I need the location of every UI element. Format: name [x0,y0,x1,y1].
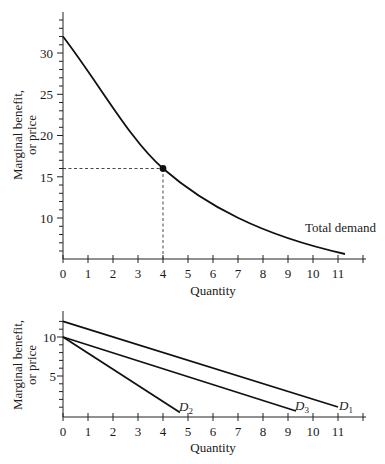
top-x-label: 5 [185,266,192,281]
bottom-x-label: 8 [260,424,267,439]
top-y-label-10: 10 [40,211,53,226]
figure: 30 25 20 15 10 0 1 2 3 4 5 [0,0,385,464]
bottom-x-label: 4 [160,424,167,439]
top-x-label: 2 [110,266,117,281]
top-x-tick-labels: 0 1 2 3 4 5 6 7 8 9 10 11 [60,266,345,281]
top-x-label: 6 [210,266,217,281]
bottom-chart: 10 5 0 1 2 3 4 5 6 7 8 [10,311,366,455]
top-y-title-line2: or price [24,115,39,155]
bottom-x-label: 10 [307,424,320,439]
bottom-y-label-5: 5 [50,369,57,384]
top-x-label: 7 [235,266,242,281]
total-demand-label: Total demand [305,220,376,235]
d1-label: D1 [338,398,353,415]
top-x-label: 10 [307,266,320,281]
d3-label: D3 [294,398,309,415]
bottom-y-ticks [57,321,63,407]
top-y-title-line1: Marginal benefit, [10,90,25,180]
top-y-ticks [57,20,63,251]
top-x-label: 8 [260,266,267,281]
total-demand-curve [63,37,345,255]
bottom-x-label: 1 [85,424,92,439]
top-y-label-20: 20 [40,128,53,143]
top-chart: 30 25 20 15 10 0 1 2 3 4 5 [10,12,376,298]
bottom-x-label: 2 [110,424,117,439]
bottom-y-title-line2: or price [24,345,39,385]
top-x-label: 0 [60,266,67,281]
d2-label: D2 [178,399,193,416]
top-x-label: 11 [332,266,345,281]
bottom-x-label: 3 [135,424,142,439]
top-y-label-25: 25 [40,87,53,102]
bottom-x-label: 9 [285,424,292,439]
bottom-x-label: 0 [60,424,67,439]
top-x-label: 1 [85,266,92,281]
bottom-y-title-line1: Marginal benefit, [10,320,25,410]
equilibrium-point-marker [160,165,167,172]
bottom-x-tick-labels: 0 1 2 3 4 5 6 7 8 9 10 11 [60,424,345,439]
top-x-label: 3 [135,266,142,281]
bottom-y-axis-title: Marginal benefit, or price [10,320,39,410]
top-x-label: 9 [285,266,292,281]
top-x-axis-title: Quantity [190,283,236,298]
bottom-x-axis-title: Quantity [190,440,236,455]
top-y-axis-title: Marginal benefit, or price [10,90,39,180]
d2-line [63,337,180,413]
top-y-label-30: 30 [40,46,53,61]
bottom-x-label: 7 [235,424,242,439]
bottom-x-label: 11 [332,424,345,439]
top-y-label-15: 15 [40,170,53,185]
bottom-y-label-10: 10 [43,330,56,345]
bottom-x-label: 5 [185,424,192,439]
top-x-label: 4 [160,266,167,281]
bottom-x-label: 6 [210,424,217,439]
